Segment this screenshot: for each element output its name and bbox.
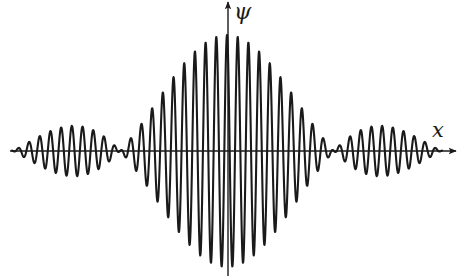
y-axis-label-psi: ψ: [234, 1, 251, 23]
x-axis-label: x: [432, 120, 444, 141]
wave-packet-plot: [0, 0, 461, 276]
wave-packet-figure: ψ x: [0, 0, 461, 276]
